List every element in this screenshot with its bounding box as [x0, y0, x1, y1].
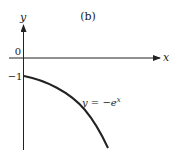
graph: (b) y x 0 −1 y = −ex: [0, 0, 174, 157]
origin-label: 0: [15, 46, 21, 57]
y-tick-label-minus-one: −1: [8, 71, 23, 82]
panel-label: (b): [80, 10, 96, 23]
curve-label: y = −ex: [81, 96, 121, 108]
y-axis-label: y: [19, 11, 27, 24]
x-axis-label: x: [163, 51, 170, 64]
curve-neg-exp: [24, 76, 108, 148]
